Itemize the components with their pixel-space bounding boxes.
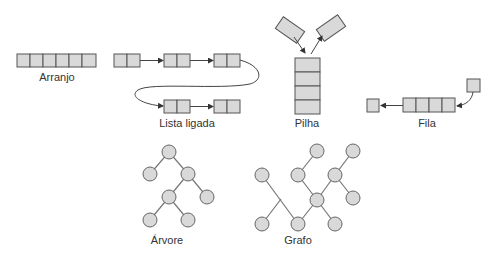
linked-list-structure: Lista ligada <box>114 54 259 129</box>
tree-structure: Árvore <box>143 145 214 246</box>
array-structure: Arranjo <box>17 54 96 83</box>
queue-label: Fila <box>418 117 437 129</box>
queue-structure: Fila <box>367 79 480 129</box>
graph-label: Grafo <box>284 234 312 246</box>
tree-label: Árvore <box>151 234 183 246</box>
data-structures-diagram: Arranjo Lista ligada Pi <box>0 0 494 257</box>
linked-list-label: Lista ligada <box>159 117 216 129</box>
stack-label: Pilha <box>295 117 320 129</box>
graph-structure: Grafo <box>255 144 360 246</box>
stack-structure: Pilha <box>275 15 345 129</box>
array-label: Arranjo <box>39 71 74 83</box>
